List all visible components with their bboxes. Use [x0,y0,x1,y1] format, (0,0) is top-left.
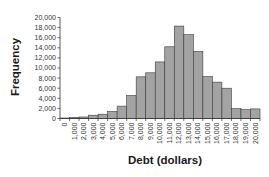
x-tick-label: 2,000 [80,122,87,140]
histogram-bar [165,47,175,119]
x-tick-label: 5,000 [109,122,116,140]
x-tick-label: 0 [61,122,68,126]
x-tick-label: 18,000 [232,122,239,144]
x-tick-label: 17,000 [223,122,230,144]
y-tick-label: 0 [52,115,56,122]
histogram-bar [108,111,118,118]
x-tick-label: 12,000 [175,122,182,144]
x-tick-label: 13,000 [185,122,192,144]
histogram-bar [89,115,99,118]
histogram-bar [231,109,241,119]
y-axis-title: Frequency [9,37,21,96]
x-tick-label: 16,000 [213,122,220,144]
y-tick-label: 20,000 [35,14,57,21]
histogram-bar [250,109,260,119]
y-tick-label: 12,000 [35,54,57,61]
y-tick-label: 8,000 [38,75,56,82]
y-tick-label: 6,000 [38,85,56,92]
histogram-bar [136,77,146,119]
histogram-bar [184,35,194,119]
histogram-bar [203,77,213,119]
x-tick-label: 19,000 [242,122,249,144]
x-tick-label: 8,000 [137,122,144,140]
histogram-bar [212,82,222,118]
bars-group [60,26,260,118]
x-tick-label: 11,000 [166,122,173,143]
x-tick-label: 20,000 [252,122,259,144]
histogram-bar [155,62,165,119]
x-tick-label: 4,000 [99,122,106,140]
x-tick-label: 9,000 [147,122,154,140]
histogram-bar [117,106,127,118]
x-axis: 01,0002,0003,0004,0005,0006,0007,0008,00… [60,119,260,144]
histogram-bar [193,51,203,118]
histogram-bar [222,88,232,118]
histogram-bar [127,96,137,119]
histogram-bar [174,26,184,118]
y-tick-label: 18,000 [35,24,57,31]
x-tick-label: 10,000 [156,122,163,144]
y-axis: 02,0004,0006,0008,00010,00012,00014,0001… [35,14,60,122]
histogram-bar [98,114,108,118]
y-tick-label: 16,000 [35,34,57,41]
histogram-chart: 02,0004,0006,0008,00010,00012,00014,0001… [0,0,269,177]
x-tick-label: 3,000 [90,122,97,140]
x-tick-label: 7,000 [128,122,135,140]
x-tick-label: 6,000 [118,122,125,140]
x-tick-label: 1,000 [71,122,78,140]
x-axis-title: Debt (dollars) [128,154,202,166]
y-tick-label: 4,000 [38,95,56,102]
x-tick-label: 14,000 [194,122,201,144]
x-tick-label: 15,000 [204,122,211,144]
histogram-bar [241,110,251,119]
y-tick-label: 2,000 [38,105,56,112]
y-tick-label: 14,000 [35,44,57,51]
histogram-bar [146,73,156,119]
y-tick-label: 10,000 [35,64,57,71]
